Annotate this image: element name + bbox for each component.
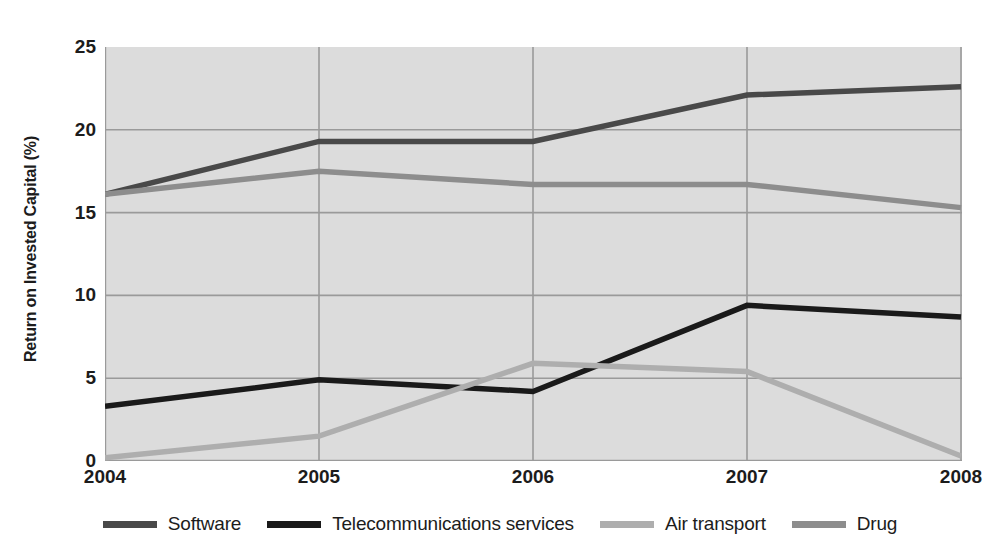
x-tick-label: 2006 [488, 466, 578, 488]
line-chart-figure: Return on Invested Capital (%) 252015105… [0, 0, 1000, 546]
x-tick-label: 2005 [274, 466, 364, 488]
legend-swatch-icon [103, 521, 157, 528]
x-tick-label: 2004 [60, 466, 150, 488]
gridlines [105, 47, 962, 461]
legend-item-air-transport[interactable]: Air transport [600, 513, 766, 535]
y-tick-label: 25 [50, 36, 96, 58]
legend-label: Drug [857, 513, 897, 535]
legend-label: Software [168, 513, 241, 535]
chart-legend: SoftwareTelecommunications servicesAir t… [0, 505, 1000, 543]
legend-swatch-icon [600, 521, 654, 528]
y-tick-label: 20 [50, 119, 96, 141]
x-tick-label: 2007 [702, 466, 792, 488]
y-axis-tick-labels: 2520151050 [44, 0, 96, 546]
plot-svg [105, 47, 962, 461]
legend-label: Air transport [665, 513, 766, 535]
legend-label: Telecommunications services [332, 513, 574, 535]
y-tick-label: 15 [50, 202, 96, 224]
x-tick-label: 2008 [916, 466, 1000, 488]
y-tick-label: 10 [50, 284, 96, 306]
legend-swatch-icon [267, 521, 321, 528]
plot-area [105, 47, 962, 461]
legend-item-drug[interactable]: Drug [792, 513, 897, 535]
legend-item-telecommunications-services[interactable]: Telecommunications services [267, 513, 574, 535]
legend-swatch-icon [792, 521, 846, 528]
legend-item-software[interactable]: Software [103, 513, 241, 535]
y-axis-title: Return on Invested Capital (%) [22, 84, 40, 414]
y-tick-label: 5 [50, 367, 96, 389]
x-axis-tick-labels: 20042005200620072008 [0, 466, 1000, 494]
